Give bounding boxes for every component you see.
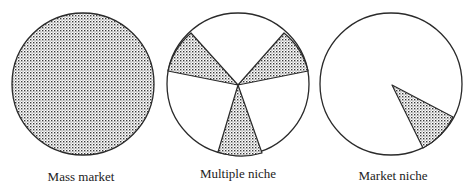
multiple-niche-diagram — [167, 13, 309, 156]
market-niche-label: Market niche — [359, 168, 428, 184]
mass-market-label: Mass market — [48, 169, 115, 185]
multiple-niche-label: Multiple niche — [200, 166, 276, 182]
mass-market-diagram — [12, 13, 154, 155]
market-niche-diagram — [320, 13, 462, 155]
market-targeting-diagram — [0, 0, 471, 194]
mass-market-circle — [12, 13, 154, 155]
